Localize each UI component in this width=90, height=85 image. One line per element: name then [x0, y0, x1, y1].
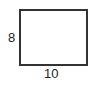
width-label: 10 — [44, 67, 58, 80]
height-label: 8 — [8, 31, 15, 44]
rectangle-shape — [19, 9, 88, 66]
